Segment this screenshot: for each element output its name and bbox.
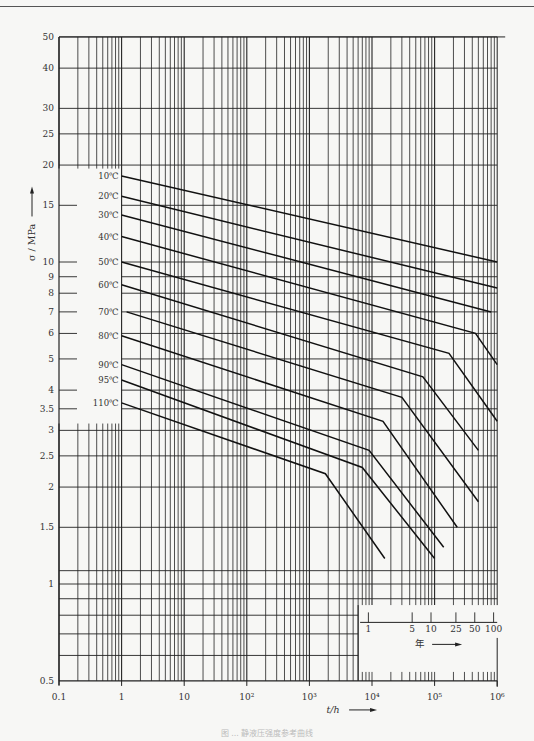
curve-label: 110℃	[93, 398, 119, 408]
y-tick-label: 30	[43, 103, 55, 113]
curve-label: 30℃	[98, 210, 118, 220]
y-tick-label: 1.5	[40, 522, 55, 532]
curve-label: 50℃	[98, 257, 118, 267]
y-tick-label: 1	[48, 579, 54, 589]
y-tick-label: 40	[43, 63, 55, 73]
curve-label: 95℃	[98, 375, 118, 385]
curve-label: 60℃	[98, 280, 118, 290]
y-tick-label: 3.5	[40, 404, 55, 414]
y-tick-label: 4	[48, 385, 54, 395]
years-tick-label: 10	[425, 624, 437, 634]
arrow-up-icon	[30, 186, 34, 193]
creep-rupture-chart: 0.111010²10³10⁴10⁵10⁶0.511.522.533.54567…	[0, 0, 534, 741]
y-axis-title: σ / MPa	[26, 224, 37, 261]
x-axis-title: t/h	[327, 704, 340, 715]
curve-110c	[122, 403, 385, 559]
years-tick-label: 25	[450, 624, 462, 634]
arrow-right-icon	[455, 642, 462, 646]
y-tick-label: 7	[48, 307, 54, 317]
curve-label: 20℃	[98, 191, 118, 201]
figure-caption: 图 ... 静液压强度参考曲线	[0, 727, 534, 738]
axes	[59, 37, 505, 687]
y-tick-label: 15	[43, 200, 55, 210]
y-tick-label: 20	[43, 160, 55, 170]
x-tick-label: 10²	[239, 692, 254, 702]
curve-95c	[122, 380, 435, 559]
y-tick-label: 2	[48, 482, 54, 492]
y-tick-label: 0.5	[40, 676, 55, 686]
y-tick-label: 5	[48, 354, 54, 364]
y-tick-label: 8	[48, 288, 54, 298]
curve-label: 10℃	[98, 171, 118, 181]
x-tick-label: 10³	[302, 692, 317, 702]
x-tick-label: 10	[178, 692, 190, 702]
curve-label: 90℃	[98, 360, 118, 370]
y-tick-label: 9	[48, 272, 54, 282]
x-tick-label: 10⁵	[427, 692, 442, 702]
y-tick-label: 50	[43, 32, 55, 42]
years-tick-label: 5	[409, 624, 415, 634]
years-tick-label: 1	[366, 624, 372, 634]
y-tick-label: 25	[43, 129, 55, 139]
curve-label: 40℃	[98, 232, 118, 242]
x-tick-label: 1	[119, 692, 125, 702]
y-tick-label: 6	[48, 328, 54, 338]
y-tick-label: 2.5	[40, 451, 55, 461]
x-tick-label: 10⁴	[364, 692, 379, 702]
years-axis-label: 年	[415, 638, 425, 649]
arrow-right-icon	[370, 708, 377, 712]
years-tick-label: 100	[485, 624, 502, 634]
curve-label: 80℃	[98, 331, 118, 341]
x-tick-label: 10⁶	[490, 692, 505, 702]
y-tick-label: 3	[48, 425, 54, 435]
years-tick-label: 50	[469, 624, 481, 634]
y-tick-label: 10	[43, 257, 55, 267]
curve-label: 70℃	[98, 307, 118, 317]
x-tick-label: 0.1	[52, 692, 66, 702]
